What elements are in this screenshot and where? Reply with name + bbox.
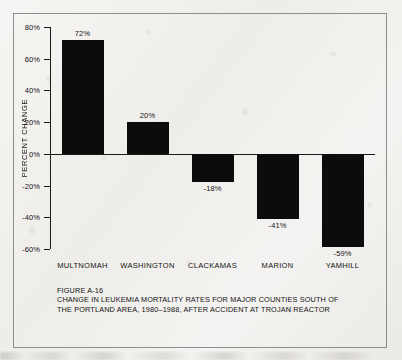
y-tick-label: -40% bbox=[22, 213, 40, 222]
y-axis-line bbox=[50, 27, 51, 249]
bar bbox=[257, 154, 299, 219]
y-axis-title-label: PERCENT CHANGE bbox=[20, 99, 29, 177]
y-tick-mark: 40% bbox=[44, 90, 50, 91]
y-tick-mark: 0% bbox=[44, 154, 50, 155]
y-tick-label: 60% bbox=[25, 54, 40, 63]
bar-value-label: -41% bbox=[242, 221, 314, 230]
bar bbox=[127, 122, 169, 154]
y-tick-label: 40% bbox=[25, 86, 40, 95]
caption-line-1: CHANGE IN LEUKEMIA MORTALITY RATES FOR M… bbox=[57, 295, 339, 304]
bar bbox=[322, 154, 364, 248]
bar-value-label: 72% bbox=[47, 29, 119, 38]
y-tick-label: -60% bbox=[22, 245, 40, 254]
bar-value-label: 20% bbox=[112, 111, 184, 120]
y-tick-label: 20% bbox=[25, 118, 40, 127]
y-tick-mark: -40% bbox=[44, 217, 50, 218]
figure-number: FIGURE A-16 bbox=[57, 286, 339, 295]
bar bbox=[62, 40, 104, 154]
y-tick-mark: -60% bbox=[44, 249, 50, 250]
bar-value-label: -18% bbox=[177, 184, 249, 193]
y-tick-label: 0% bbox=[29, 149, 40, 158]
y-tick-label: -20% bbox=[22, 181, 40, 190]
bar bbox=[192, 154, 234, 183]
bar-value-label: -59% bbox=[307, 249, 379, 258]
category-label: YAMHILL bbox=[293, 261, 393, 270]
y-tick-mark: 60% bbox=[44, 59, 50, 60]
y-tick-mark: -20% bbox=[44, 186, 50, 187]
caption-line-2: THE PORTLAND AREA, 1980–1988, AFTER ACCI… bbox=[57, 305, 339, 314]
y-tick-mark: 20% bbox=[44, 122, 50, 123]
figure-caption: FIGURE A-16 CHANGE IN LEUKEMIA MORTALITY… bbox=[57, 286, 339, 314]
page-edge-smudge bbox=[0, 352, 402, 360]
chart-plot-area: 80%60%40%20%0%-20%-40%-60% 72%20%-18%-41… bbox=[50, 27, 375, 249]
y-tick-label: 80% bbox=[25, 23, 40, 32]
